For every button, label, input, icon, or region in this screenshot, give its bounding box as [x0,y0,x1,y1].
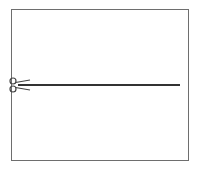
cut-diagram [0,0,201,169]
